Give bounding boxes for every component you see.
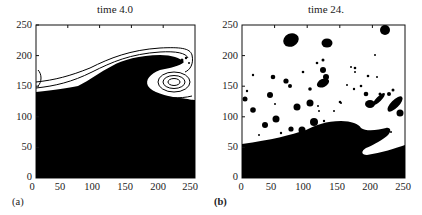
x-tick-200: 200 <box>355 181 385 192</box>
y-tick-150: 150 <box>214 80 238 91</box>
y-tick-250: 250 <box>8 19 32 30</box>
y-tick-250: 250 <box>214 19 238 30</box>
x-tick-250: 250 <box>175 181 205 192</box>
x-tick-150: 150 <box>110 181 140 192</box>
x-tick-50: 50 <box>45 181 75 192</box>
x-tick-100: 100 <box>77 181 107 192</box>
panel-b-label: (b) <box>214 196 227 207</box>
x-tick-250: 250 <box>388 181 418 192</box>
x-tick-100: 100 <box>288 181 318 192</box>
y-tick-50: 50 <box>214 141 238 152</box>
x-tick-0: 0 <box>17 181 47 192</box>
x-tick-0: 0 <box>226 181 256 192</box>
y-tick-100: 100 <box>8 111 32 122</box>
x-tick-50: 50 <box>256 181 286 192</box>
panel-b: time 24. <box>211 0 422 215</box>
x-tick-200: 200 <box>143 181 173 192</box>
y-tick-100: 100 <box>214 111 238 122</box>
y-tick-200: 200 <box>214 50 238 61</box>
y-tick-50: 50 <box>8 141 32 152</box>
y-tick-150: 150 <box>8 80 32 91</box>
y-tick-200: 200 <box>8 50 32 61</box>
x-tick-150: 150 <box>322 181 352 192</box>
panel-a-label: (a) <box>12 196 24 207</box>
panel-a: time 4.0 250 <box>0 0 211 215</box>
